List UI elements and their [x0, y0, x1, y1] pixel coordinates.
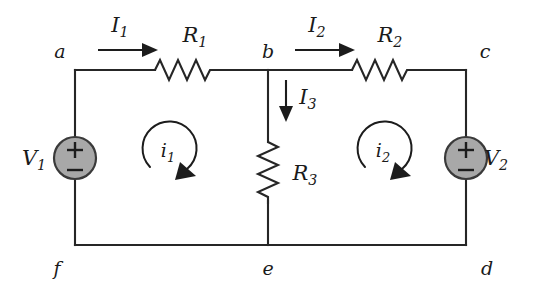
r1-label: R1: [182, 23, 208, 50]
v2-label: V2: [484, 146, 508, 173]
i1-mesh-label: i1: [161, 139, 175, 165]
i2-mesh-label: i2: [376, 139, 390, 165]
resistor-r1-symbol: [155, 60, 218, 80]
i2-branch-label: I2: [307, 13, 325, 40]
node-label-a: a: [54, 40, 65, 62]
i1-branch-label: I1: [110, 13, 128, 40]
current-arrow-i3: [279, 80, 293, 122]
voltage-source-v2[interactable]: [445, 137, 487, 179]
circuit-svg: V1 V2 R1 R2 R3 I1 I2: [0, 0, 534, 287]
wire-network: [75, 60, 466, 245]
voltage-source-v1[interactable]: [54, 137, 96, 179]
resistor-r2-symbol: [352, 60, 414, 80]
v1-label: V1: [22, 146, 46, 173]
current-arrow-i1: [98, 43, 158, 57]
current-arrow-i2: [295, 43, 355, 57]
r2-label: R2: [377, 23, 403, 50]
node-label-f: f: [51, 257, 63, 279]
node-label-c: c: [480, 40, 491, 62]
node-label-e: e: [262, 257, 273, 279]
r3-label: R3: [292, 161, 318, 188]
node-label-d: d: [481, 257, 493, 279]
circuit-diagram: V1 V2 R1 R2 R3 I1 I2: [0, 0, 534, 287]
resistor-r3-symbol: [258, 142, 278, 204]
i3-branch-label: I3: [298, 85, 316, 112]
node-label-b: b: [262, 40, 274, 62]
